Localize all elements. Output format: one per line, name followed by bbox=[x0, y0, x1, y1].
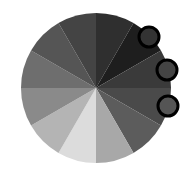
color-picker-handle[interactable] bbox=[158, 96, 178, 116]
color-picker-handle[interactable] bbox=[139, 27, 159, 47]
color-picker-handle[interactable] bbox=[157, 60, 177, 80]
color-wheel[interactable] bbox=[0, 0, 194, 171]
